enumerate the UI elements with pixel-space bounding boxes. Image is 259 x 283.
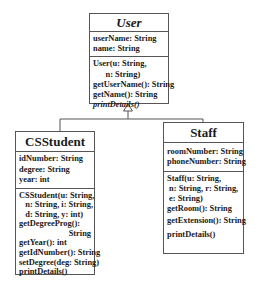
attribute: phoneNumber: String	[167, 157, 240, 167]
method: User(u: String,	[93, 59, 165, 69]
attribute: name: String	[93, 44, 165, 54]
attribute: roomNumber: String	[167, 147, 240, 157]
class-user-name: User	[90, 14, 168, 32]
class-staff-methods: Staff(u: String, n: String, r: String, e…	[164, 172, 243, 242]
method: getName(): String	[93, 90, 165, 100]
method: e: String)	[167, 194, 240, 204]
class-staff-attributes: roomNumber: String phoneNumber: String	[164, 143, 243, 172]
class-staff[interactable]: Staff roomNumber: String phoneNumber: St…	[163, 122, 244, 254]
method: Staff(u: String,	[167, 174, 240, 184]
method: getExtension(): String	[167, 216, 240, 226]
class-csstudent-methods: CSStudent(u: String, n: String, i: Strin…	[16, 189, 94, 279]
class-user-methods: User(u: String, n: String) getUserName()…	[90, 57, 168, 112]
attribute: idNumber: String	[19, 154, 91, 165]
method: getRoom(): String	[167, 204, 240, 214]
class-csstudent-name: CSStudent	[16, 132, 94, 152]
method-return-type: String	[19, 229, 91, 239]
class-user[interactable]: User userName: String name: String User(…	[89, 13, 169, 104]
method: printDetails()	[167, 230, 240, 240]
abstract-method: printDetails()	[93, 100, 165, 110]
class-staff-name: Staff	[164, 123, 243, 143]
method: n: String)	[93, 70, 165, 80]
method: d: String, y: int)	[19, 210, 91, 220]
class-csstudent[interactable]: CSStudent idNumber: String degree: Strin…	[15, 131, 95, 275]
method: getYear(): int	[19, 238, 91, 248]
method: getDegreeProg():	[19, 219, 91, 229]
class-user-attributes: userName: String name: String	[90, 32, 168, 57]
method: getIdNumber(): String	[19, 248, 91, 258]
method: setDegree(deg: String)	[19, 258, 91, 268]
attribute: year: int	[19, 175, 91, 186]
method: printDetails()	[19, 267, 91, 277]
method: n: String, i: String,	[19, 200, 91, 210]
method: n: String, r: String,	[167, 184, 240, 194]
method: getUserName(): String	[93, 80, 165, 90]
class-csstudent-attributes: idNumber: String degree: String year: in…	[16, 152, 94, 189]
attribute: userName: String	[93, 34, 165, 44]
method: CSStudent(u: String,	[19, 191, 91, 201]
attribute: degree: String	[19, 165, 91, 176]
